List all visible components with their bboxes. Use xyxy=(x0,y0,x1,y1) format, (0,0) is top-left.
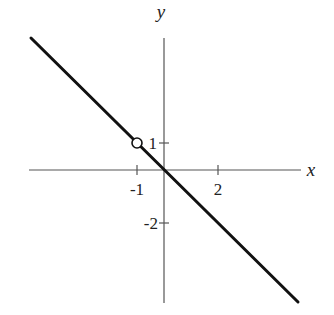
x-axis-label: x xyxy=(306,159,316,180)
y-tick-label-neg2: -2 xyxy=(144,214,158,233)
x-tick-label-2: 2 xyxy=(214,180,223,199)
y-axis-label: y xyxy=(155,1,166,22)
open-circle-hole xyxy=(132,138,142,148)
chart-canvas: y x -1 2 1 -2 xyxy=(0,0,334,315)
x-tick-label-neg1: -1 xyxy=(130,180,144,199)
y-tick-label-1: 1 xyxy=(149,134,158,153)
